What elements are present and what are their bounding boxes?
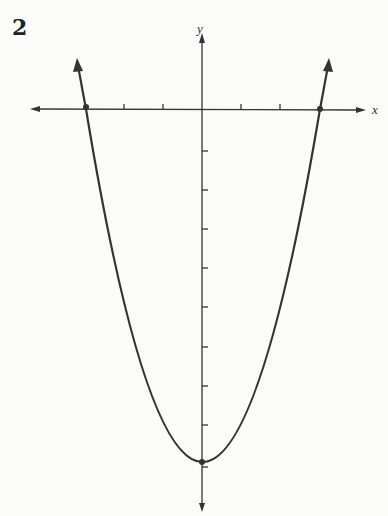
parabola-curve xyxy=(86,109,320,462)
y-ticks xyxy=(202,151,208,467)
x-axis-right-arrow-icon xyxy=(356,107,366,113)
vertex-point xyxy=(199,459,205,465)
y-axis-label: y xyxy=(195,21,203,36)
root-point-left xyxy=(83,104,89,110)
x-axis xyxy=(34,109,360,110)
parabola-graph: y x xyxy=(0,0,388,516)
x-axis-left-arrow-icon xyxy=(30,106,40,112)
curve-right-arrow-icon xyxy=(323,58,333,72)
root-point-right xyxy=(317,106,323,112)
x-axis-label: x xyxy=(371,102,378,117)
y-axis-down-arrow-icon xyxy=(199,503,205,512)
curve-left-arrow-icon xyxy=(73,58,83,72)
